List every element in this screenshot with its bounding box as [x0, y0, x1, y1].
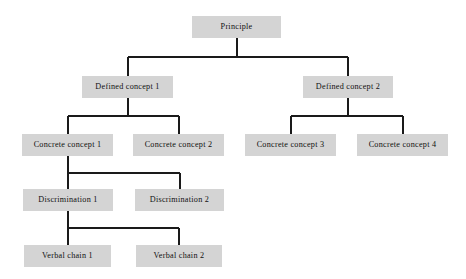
node-discrim2: Discrimination 2 [135, 189, 224, 211]
node-principle: Principle [192, 16, 281, 38]
node-label: Discrimination 1 [38, 196, 97, 204]
node-label: Principle [221, 23, 253, 31]
node-label: Verbal chain 2 [154, 252, 205, 260]
node-label: Defined concept 2 [316, 83, 380, 91]
node-label: Concrete concept 1 [34, 141, 102, 149]
node-defined1: Defined concept 1 [82, 76, 173, 98]
node-label: Defined concept 1 [95, 83, 159, 91]
node-concrete4: Concrete concept 4 [357, 134, 448, 156]
node-verbal1: Verbal chain 1 [24, 245, 111, 267]
node-verbal2: Verbal chain 2 [136, 245, 222, 267]
node-concrete1: Concrete concept 1 [22, 134, 113, 156]
node-label: Concrete concept 3 [257, 141, 325, 149]
node-discrim1: Discrimination 1 [23, 189, 113, 211]
node-label: Discrimination 2 [150, 196, 209, 204]
node-concrete3: Concrete concept 3 [245, 134, 336, 156]
node-label: Concrete concept 4 [369, 141, 437, 149]
node-concrete2: Concrete concept 2 [133, 134, 224, 156]
hierarchy-diagram: PrincipleDefined concept 1Defined concep… [0, 0, 466, 279]
node-label: Verbal chain 1 [42, 252, 93, 260]
node-defined2: Defined concept 2 [303, 76, 393, 98]
node-label: Concrete concept 2 [145, 141, 213, 149]
